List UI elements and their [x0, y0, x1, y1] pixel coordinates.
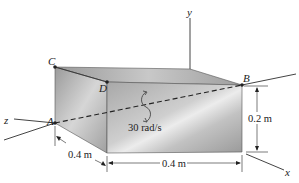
- x-axis: [246, 154, 284, 170]
- x-axis-label: x: [284, 166, 290, 178]
- arrowhead-length-left: [108, 161, 113, 165]
- angular-velocity-label: 30 rad/s: [128, 122, 162, 133]
- arrowhead-depth-left: [56, 136, 61, 141]
- depth-dimension-label: 0.4 m: [68, 149, 92, 160]
- arrowhead-depth-right: [101, 161, 106, 166]
- arrowhead-length-right: [236, 161, 241, 165]
- point-a: [53, 121, 57, 125]
- height-dimension-label: 0.2 m: [248, 113, 272, 124]
- label-b: B: [243, 72, 250, 84]
- y-axis-label: y: [186, 6, 192, 18]
- axis-line-ab-right: [242, 74, 296, 85]
- block-front-face: [107, 82, 242, 153]
- arrowhead-up: [255, 87, 259, 92]
- arrowhead-down: [255, 146, 259, 151]
- label-c: C: [48, 55, 56, 67]
- label-a: A: [46, 115, 54, 127]
- block-diagram: y z C D A B 30 rad/s 0.2 m x 0.4: [0, 0, 299, 183]
- length-dimension-label: 0.4 m: [162, 158, 186, 169]
- z-axis-label: z: [3, 114, 9, 126]
- label-d: D: [98, 82, 107, 94]
